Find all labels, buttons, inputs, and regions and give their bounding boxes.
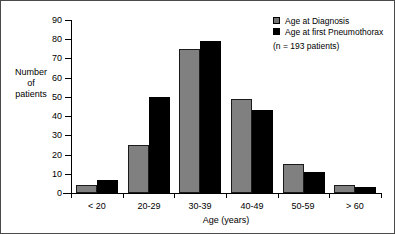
bar-5059-series-1	[304, 172, 325, 193]
chart-legend: Age at Diagnosis Age at first Pneumothor…	[273, 15, 383, 51]
x-axis-tick-label: 50-59	[273, 201, 333, 211]
bar-20-series-0	[76, 185, 97, 193]
bar-60-series-1	[355, 187, 376, 193]
x-axis-title: Age (years)	[71, 215, 381, 225]
y-axis-tick-label: 20	[41, 151, 62, 160]
legend-label-series-1: Age at first Pneumothorax	[285, 27, 383, 37]
x-axis-tick	[174, 193, 175, 198]
y-axis-tick-label: 0	[41, 189, 62, 198]
y-axis-tick-label: 70	[41, 54, 62, 63]
x-axis-tick-label: < 20	[67, 201, 127, 211]
bar-4049-series-0	[231, 99, 252, 193]
legend-swatch-icon-series-0	[273, 17, 280, 24]
x-axis-tick	[71, 193, 72, 198]
x-axis-tick	[329, 193, 330, 198]
y-axis-tick-label: 10	[41, 170, 62, 179]
x-axis-tick-label: > 60	[325, 201, 385, 211]
legend-item-age-at-first-pneumothorax: Age at first Pneumothorax	[273, 26, 383, 37]
bar-4049-series-1	[252, 110, 273, 193]
legend-item-age-at-diagnosis: Age at Diagnosis	[273, 15, 383, 26]
bar-60-series-0	[334, 185, 355, 193]
x-axis-tick	[278, 193, 279, 198]
chart-figure: Number of patients 0102030405060708090 <…	[0, 0, 395, 234]
x-axis-tick	[381, 193, 382, 198]
legend-label-series-0: Age at Diagnosis	[285, 16, 349, 26]
y-axis-tick-label: 60	[41, 74, 62, 83]
y-axis-tick-label: 40	[41, 112, 62, 121]
y-axis-tick-label: 80	[41, 35, 62, 44]
bar-2029-series-1	[149, 97, 170, 193]
x-axis-tick	[123, 193, 124, 198]
y-axis-tick-label: 90	[41, 16, 62, 25]
bar-3039-series-1	[200, 41, 221, 193]
y-axis-tick-label: 50	[41, 93, 62, 102]
bar-2029-series-0	[128, 145, 149, 193]
bar-5059-series-0	[283, 164, 304, 193]
x-axis-tick-label: 30-39	[170, 201, 230, 211]
legend-swatch-icon-series-1	[273, 28, 280, 35]
x-axis-tick	[226, 193, 227, 198]
y-axis-tick-label: 30	[41, 131, 62, 140]
bar-20-series-1	[97, 180, 118, 193]
bar-3039-series-0	[179, 49, 200, 193]
legend-sample-size-note: (n = 193 patients)	[273, 41, 383, 51]
x-axis-line	[63, 193, 381, 194]
